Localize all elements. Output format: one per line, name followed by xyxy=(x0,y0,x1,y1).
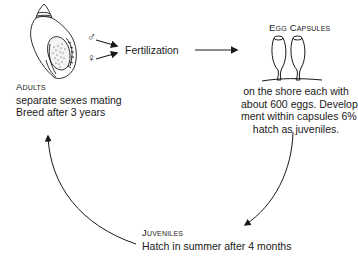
male-symbol: ♂ xyxy=(87,31,96,44)
adults-stage-text: Adults separate sexes mating Breed after… xyxy=(16,81,122,119)
juveniles-stage-text: Juveniles Hatch in summer after 4 months xyxy=(142,227,291,252)
egg-capsules-title: Egg Capsules xyxy=(269,22,330,35)
female-symbol: ♀ xyxy=(87,52,96,65)
egg-capsules-description: on the shore each with about 600 eggs. D… xyxy=(241,85,351,135)
juveniles-line-1: Hatch in summer after 4 months xyxy=(142,240,291,253)
adults-line-1: separate sexes mating xyxy=(16,94,122,107)
whelk-shell-icon xyxy=(31,4,77,79)
fertilization-label: Fertilization xyxy=(125,44,179,57)
juveniles-to-adults-arrow xyxy=(48,136,136,244)
female-arrow xyxy=(96,53,117,59)
adults-line-2: Breed after 3 years xyxy=(16,106,122,119)
egg-capsules-line-2: about 600 eggs. Develop- xyxy=(241,98,351,111)
capsules-to-juveniles-arrow xyxy=(245,132,293,225)
male-arrow xyxy=(96,40,117,46)
egg-capsules-line-1: on the shore each with xyxy=(241,85,351,98)
adults-title: Adults xyxy=(16,81,122,94)
egg-capsules-line-3: ment within capsules 6% xyxy=(241,110,351,123)
egg-capsules-icon xyxy=(262,36,322,81)
juveniles-title: Juveniles xyxy=(142,227,291,240)
life-cycle-diagram: ♂ ♀ Fertilization Adults separate sexes … xyxy=(0,0,358,269)
egg-capsules-line-4: hatch as juveniles. xyxy=(241,123,351,136)
